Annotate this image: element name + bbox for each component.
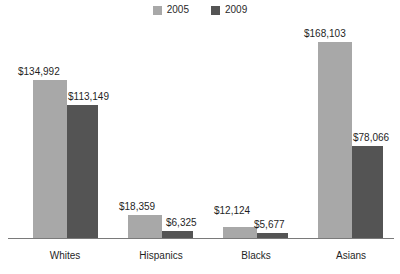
bar-blacks-2005[interactable] xyxy=(223,227,257,238)
bar-value-label: $12,124 xyxy=(214,205,250,216)
bar-chart: 2005 2009 $134,992$113,149$18,359$6,325$… xyxy=(0,0,400,274)
bar-asians-2009[interactable] xyxy=(352,146,383,238)
bar-asians-2005[interactable] xyxy=(318,42,352,238)
bar-value-label: $78,066 xyxy=(353,132,389,143)
plot-area: $134,992$113,149$18,359$6,325$12,124$5,6… xyxy=(0,0,400,274)
x-axis-baseline xyxy=(8,238,394,239)
bar-value-label: $5,677 xyxy=(254,219,285,230)
bar-value-label: $168,103 xyxy=(304,28,346,39)
category-label-asians: Asians xyxy=(316,250,386,262)
bar-value-label: $18,359 xyxy=(119,201,155,212)
category-label-whites: Whites xyxy=(30,250,100,262)
bar-value-label: $134,992 xyxy=(18,66,60,77)
category-label-blacks: Blacks xyxy=(221,250,291,262)
bar-value-label: $113,149 xyxy=(68,91,109,102)
category-label-hispanics: Hispanics xyxy=(123,250,199,262)
bar-whites-2009[interactable] xyxy=(67,105,98,238)
bar-value-label: $6,325 xyxy=(166,217,197,228)
bar-hispanics-2009[interactable] xyxy=(162,231,193,238)
bar-hispanics-2005[interactable] xyxy=(128,215,162,238)
bar-whites-2005[interactable] xyxy=(33,80,67,238)
